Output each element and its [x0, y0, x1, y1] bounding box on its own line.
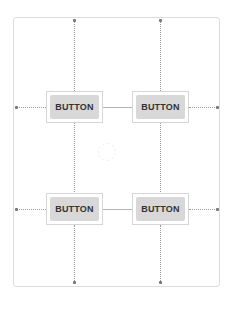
constraint-top-button-1 — [74, 20, 75, 91]
constraint-chain-vertical-col2 — [160, 123, 161, 194]
anchor-dot-icon — [159, 19, 162, 22]
button-2-bounds[interactable]: BUTTON — [132, 91, 189, 123]
constraint-top-button-2 — [160, 20, 161, 91]
anchor-dot-icon — [216, 208, 219, 211]
button-3-bounds[interactable]: BUTTON — [46, 193, 103, 225]
anchor-dot-icon — [15, 106, 18, 109]
constraint-right-button-4 — [189, 209, 217, 210]
anchor-dot-icon — [73, 281, 76, 284]
layout-canvas-frame — [13, 17, 220, 287]
button-1-bounds[interactable]: BUTTON — [46, 91, 103, 123]
constraint-chain-vertical-col1 — [74, 123, 75, 194]
loading-watermark-icon — [98, 143, 116, 161]
anchor-dot-icon — [159, 281, 162, 284]
constraint-chain-horizontal-row1 — [102, 107, 132, 108]
button-1[interactable]: BUTTON — [50, 95, 99, 119]
constraint-right-button-2 — [189, 107, 217, 108]
anchor-dot-icon — [216, 106, 219, 109]
button-4-bounds[interactable]: BUTTON — [132, 193, 189, 225]
constraint-bottom-button-4 — [160, 225, 161, 283]
constraint-left-button-1 — [16, 107, 46, 108]
constraint-chain-horizontal-row2 — [102, 209, 132, 210]
button-3[interactable]: BUTTON — [50, 197, 99, 221]
anchor-dot-icon — [73, 19, 76, 22]
button-2[interactable]: BUTTON — [136, 95, 185, 119]
anchor-dot-icon — [15, 208, 18, 211]
button-4[interactable]: BUTTON — [136, 197, 185, 221]
constraint-bottom-button-3 — [74, 225, 75, 283]
constraint-left-button-3 — [16, 209, 46, 210]
